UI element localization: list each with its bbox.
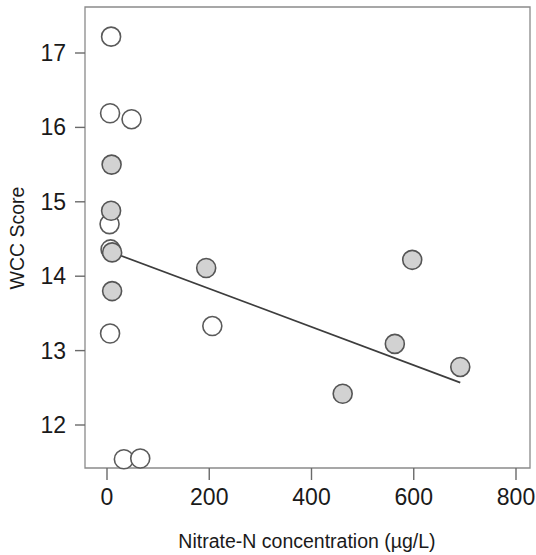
data-point (333, 384, 352, 403)
data-point (385, 334, 404, 353)
data-point (403, 250, 422, 269)
x-tick-label: 400 (292, 484, 330, 510)
y-tick-label: 14 (40, 263, 66, 289)
data-point (103, 243, 122, 262)
data-point (131, 449, 150, 468)
y-tick-label: 12 (40, 412, 66, 438)
data-point (103, 282, 122, 301)
x-tick-label: 0 (101, 484, 114, 510)
y-axis-title: WCC Score (6, 187, 28, 290)
x-tick-label: 800 (497, 484, 535, 510)
data-point (101, 104, 120, 123)
plot-canvas: 121314151617 0200400600800 Nitrate-N con… (0, 0, 536, 555)
scatter-plot-figure: 121314151617 0200400600800 Nitrate-N con… (0, 0, 536, 555)
y-tick-label: 13 (40, 338, 66, 364)
x-tick-label: 600 (395, 484, 433, 510)
y-tick-label: 17 (40, 40, 66, 66)
data-point (451, 357, 470, 376)
data-point (102, 155, 121, 174)
figure-background (0, 0, 536, 555)
y-tick-label: 15 (40, 189, 66, 215)
x-axis-title: Nitrate-N concentration (µg/L) (178, 530, 435, 552)
data-point (102, 201, 121, 220)
y-tick-label: 16 (40, 114, 66, 140)
data-point (122, 110, 141, 129)
data-point (101, 324, 120, 343)
data-point (203, 317, 222, 336)
data-point (102, 27, 121, 46)
x-tick-label: 200 (190, 484, 228, 510)
data-point (197, 259, 216, 278)
